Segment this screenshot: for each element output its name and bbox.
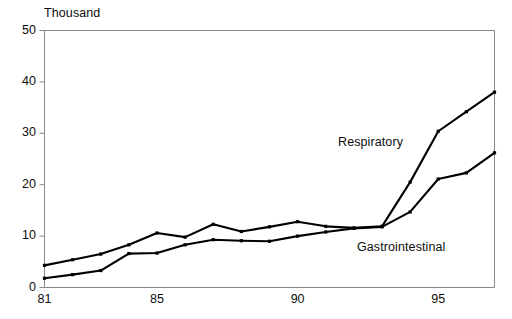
data-point-marker bbox=[268, 240, 271, 243]
line-chart-canvas bbox=[0, 0, 512, 319]
data-point-marker bbox=[493, 91, 496, 94]
data-point-marker bbox=[99, 269, 102, 272]
data-point-marker bbox=[71, 258, 74, 261]
data-point-marker bbox=[127, 243, 130, 246]
y-axis-tick-label: 30 bbox=[8, 125, 36, 139]
x-axis-tick-label: 81 bbox=[20, 292, 70, 306]
data-point-marker bbox=[184, 236, 187, 239]
series-line-gastrointestinal bbox=[45, 153, 495, 278]
data-point-marker bbox=[409, 181, 412, 184]
data-point-marker bbox=[155, 231, 158, 234]
data-point-marker bbox=[240, 239, 243, 242]
data-point-marker bbox=[437, 177, 440, 180]
y-axis-tick-label: 20 bbox=[8, 177, 36, 191]
x-axis-tick-label: 85 bbox=[132, 292, 182, 306]
series-label-gastrointestinal: Gastrointestinal bbox=[357, 240, 445, 254]
x-axis-tick-label: 95 bbox=[413, 292, 463, 306]
data-point-marker bbox=[409, 210, 412, 213]
data-point-marker bbox=[465, 110, 468, 113]
data-point-marker bbox=[212, 223, 215, 226]
data-point-marker bbox=[212, 238, 215, 241]
data-point-marker bbox=[324, 225, 327, 228]
data-point-marker bbox=[127, 252, 130, 255]
data-point-marker bbox=[240, 230, 243, 233]
data-point-marker bbox=[380, 225, 383, 228]
series-label-respiratory: Respiratory bbox=[338, 135, 403, 149]
data-point-marker bbox=[437, 130, 440, 133]
data-point-marker bbox=[99, 252, 102, 255]
data-point-marker bbox=[493, 151, 496, 154]
data-point-marker bbox=[43, 277, 46, 280]
data-point-marker bbox=[268, 225, 271, 228]
data-point-marker bbox=[324, 230, 327, 233]
data-point-marker bbox=[296, 235, 299, 238]
data-point-marker bbox=[184, 243, 187, 246]
data-point-marker bbox=[71, 273, 74, 276]
data-point-marker bbox=[296, 220, 299, 223]
data-point-marker bbox=[465, 171, 468, 174]
x-axis-tick-label: 90 bbox=[273, 292, 323, 306]
data-point-marker bbox=[43, 264, 46, 267]
y-axis-tick-label: 50 bbox=[8, 23, 36, 37]
chart-figure: Thousand 01020304050 81859095 Respirator… bbox=[0, 0, 512, 319]
y-axis-tick-label: 10 bbox=[8, 228, 36, 242]
y-axis-tick-label: 40 bbox=[8, 74, 36, 88]
data-point-marker bbox=[352, 227, 355, 230]
data-point-marker bbox=[155, 251, 158, 254]
